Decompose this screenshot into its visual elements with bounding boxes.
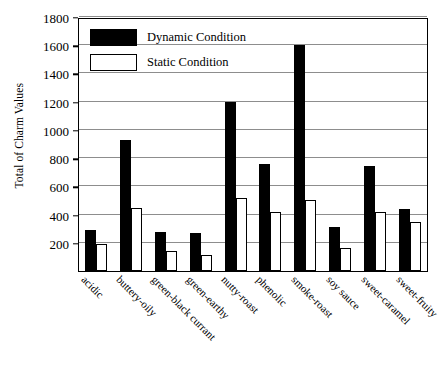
bar-static[interactable] <box>131 208 142 272</box>
y-axis-tick-label: 800 <box>50 153 70 166</box>
legend-label-static: Static Condition <box>147 55 229 70</box>
x-axis-labels: acidicbuttery-oilygreen-black currantgre… <box>78 274 428 374</box>
y-axis-tick-label: 400 <box>50 209 70 222</box>
bar-dynamic[interactable] <box>294 45 305 271</box>
bar-static[interactable] <box>201 255 212 271</box>
bar-dynamic[interactable] <box>364 166 375 271</box>
legend-swatch-dynamic-icon <box>90 29 137 46</box>
bar-dynamic[interactable] <box>190 233 201 271</box>
bar-group <box>288 19 323 271</box>
bar-static[interactable] <box>270 212 281 271</box>
bar-dynamic[interactable] <box>120 140 131 271</box>
bar-dynamic[interactable] <box>85 230 96 271</box>
y-axis-title: Total of Charm Values <box>8 0 30 272</box>
legend-item-dynamic: Dynamic Condition <box>90 25 275 50</box>
bar-static[interactable] <box>340 248 351 271</box>
bar-static[interactable] <box>305 200 316 271</box>
bar-static[interactable] <box>236 198 247 271</box>
x-axis-tick-label: acidic <box>79 274 105 300</box>
y-axis-tick-label: 600 <box>50 181 70 194</box>
chart-legend: Dynamic Condition Static Condition <box>90 25 275 75</box>
bar-dynamic[interactable] <box>329 227 340 271</box>
y-axis-tick-label: 1000 <box>43 124 69 137</box>
x-axis-tick-label: green-black currant <box>149 274 217 342</box>
legend-label-dynamic: Dynamic Condition <box>147 30 246 45</box>
y-axis-tick-label: 1800 <box>43 12 69 25</box>
bar-group <box>357 19 392 271</box>
bar-static[interactable] <box>375 212 386 271</box>
bar-dynamic[interactable] <box>259 164 270 271</box>
bar-chart-figure: Total of Charm Values 200400600800100012… <box>0 0 445 376</box>
y-axis-title-text: Total of Charm Values <box>13 83 25 189</box>
bar-static[interactable] <box>96 244 107 271</box>
bar-dynamic[interactable] <box>399 209 410 271</box>
bar-static[interactable] <box>166 251 177 271</box>
y-axis-tick-label: 1200 <box>43 96 69 109</box>
bar-group <box>323 19 358 271</box>
legend-item-static: Static Condition <box>90 50 275 75</box>
bar-dynamic[interactable] <box>155 232 166 272</box>
y-axis-tick-label: 1600 <box>43 40 69 53</box>
x-axis-tick-label: phenolic <box>254 274 289 309</box>
y-axis-tick-label: 200 <box>50 237 70 250</box>
plot-area: Dynamic Condition Static Condition <box>78 18 428 272</box>
gridline <box>79 16 427 17</box>
y-axis-tick-label: 1400 <box>43 68 69 81</box>
legend-swatch-static-icon <box>90 54 137 71</box>
bar-group <box>392 19 427 271</box>
bar-dynamic[interactable] <box>225 102 236 271</box>
bar-static[interactable] <box>410 222 421 271</box>
